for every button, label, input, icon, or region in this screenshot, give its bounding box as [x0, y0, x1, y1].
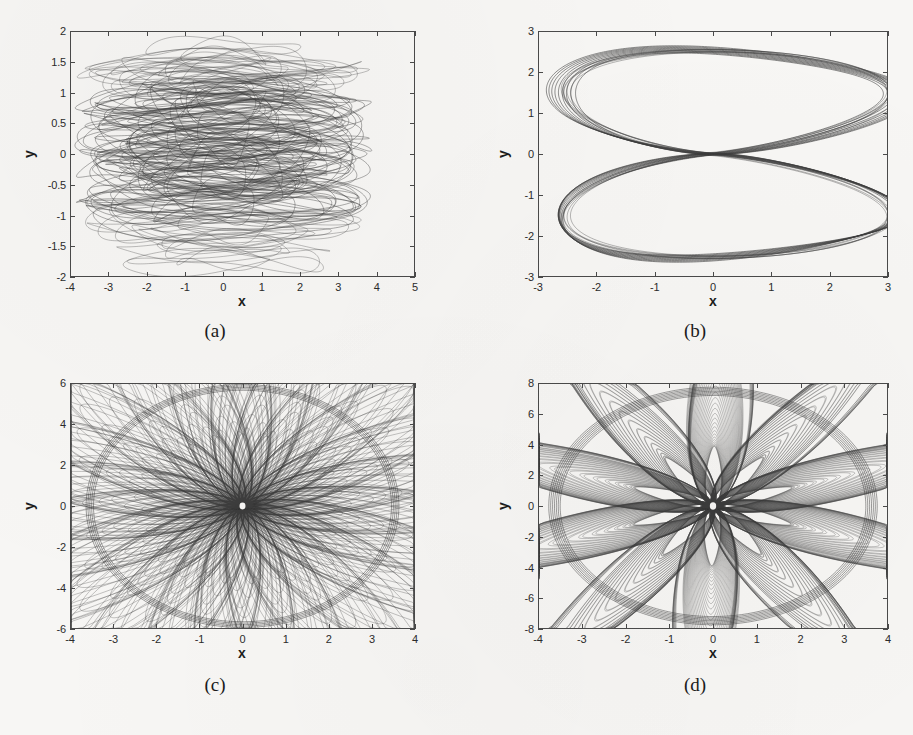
panel-a-ytick-right: [410, 123, 415, 124]
panel-d: -4-3-2-101234-8-6-4-202468 x y (d): [456, 350, 913, 735]
panel-b-xtick: [830, 272, 831, 277]
panel-c-xtick: [156, 624, 157, 629]
panel-c-xtick-top: [113, 383, 114, 388]
panel-d-xtick: [844, 624, 845, 629]
panel-a-ytick-label: 1.5: [28, 56, 66, 68]
panel-a: -4-3-2-1012345-2-1.5-1-0.500.511.52 x y …: [0, 0, 456, 360]
panel-b-plot-area: [538, 31, 888, 277]
panel-c-xtick-top: [70, 383, 71, 388]
panel-b-axes-frame: [538, 31, 888, 277]
panel-c-xtick: [113, 624, 114, 629]
panel-a-ylabel: y: [21, 150, 37, 158]
panel-c-ytick-right: [410, 424, 415, 425]
panel-d-ytick-right: [883, 629, 888, 630]
panel-d-ytick: [538, 598, 543, 599]
panel-d-ytick-label: 6: [496, 408, 534, 420]
panel-d-xtick-top: [757, 383, 758, 388]
panel-d-ytick-label: -4: [496, 562, 534, 574]
panel-c-ytick-right: [410, 629, 415, 630]
panel-d-ytick-right: [883, 475, 888, 476]
panel-c-xtick: [286, 624, 287, 629]
panel-a-axes-frame: [70, 31, 415, 277]
panel-a-ytick-label: -2: [28, 271, 66, 283]
panel-d-ytick-right: [883, 568, 888, 569]
panel-d-ytick-label: 4: [496, 439, 534, 451]
panel-d-ytick-right: [883, 598, 888, 599]
panel-c-xtick-label: -1: [195, 633, 204, 645]
panel-c-ytick-right: [410, 465, 415, 466]
panel-d-ytick: [538, 537, 543, 538]
panel-d-ytick-label: -6: [496, 592, 534, 604]
panel-a-ytick: [70, 123, 75, 124]
panel-c-xtick-top: [286, 383, 287, 388]
panel-c-xtick-label: -4: [65, 633, 74, 645]
panel-b-ytick-right: [883, 195, 888, 196]
panel-a-ytick-right: [410, 31, 415, 32]
panel-a-ytick-right: [410, 93, 415, 94]
panel-c-xtick: [372, 624, 373, 629]
panel-d-xtick-label: -1: [665, 633, 674, 645]
panel-a-xtick-top: [338, 31, 339, 36]
panel-b-xtick-label: -2: [592, 281, 601, 293]
panel-b-xtick: [655, 272, 656, 277]
panel-c-ytick-label: -2: [28, 541, 66, 553]
panel-a-ytick: [70, 154, 75, 155]
panel-a-xtick-label: -2: [142, 281, 151, 293]
panel-a-ytick: [70, 216, 75, 217]
panel-c-xtick-top: [156, 383, 157, 388]
panel-a-xtick-label: 3: [335, 281, 341, 293]
panel-d-xtick-label: 4: [885, 633, 891, 645]
panel-a-xlabel: x: [238, 293, 246, 309]
panel-d-xtick-label: 1: [754, 633, 760, 645]
panel-a-ytick-label: 1: [28, 87, 66, 99]
panel-c-xtick-label: 1: [283, 633, 289, 645]
panel-b-ytick-right: [883, 236, 888, 237]
panel-b-xtick-top: [596, 31, 597, 36]
panel-a-xtick-top: [70, 31, 71, 36]
panel-a-xtick: [300, 272, 301, 277]
panel-d-ylabel: y: [495, 502, 511, 510]
panel-d-plot-area: [538, 383, 888, 629]
figure-page: -4-3-2-1012345-2-1.5-1-0.500.511.52 x y …: [0, 0, 913, 735]
panel-b-xtick-top: [888, 31, 889, 36]
panel-c-ytick: [70, 547, 75, 548]
panel-a-xtick-label: -4: [65, 281, 74, 293]
panel-d-ytick: [538, 445, 543, 446]
panel-b-ytick-label: -2: [496, 230, 534, 242]
panel-c-xtick: [415, 624, 416, 629]
panel-b-ytick-label: 2: [496, 66, 534, 78]
panel-d-ytick: [538, 629, 543, 630]
panel-b-xtick-top: [538, 31, 539, 36]
panel-a-ytick-label: -1.5: [28, 240, 66, 252]
panel-a-xtick: [147, 272, 148, 277]
panel-a-xtick-label: -3: [104, 281, 113, 293]
panel-a-ytick: [70, 93, 75, 94]
panel-b-ytick-right: [883, 277, 888, 278]
panel-d-xtick-top: [669, 383, 670, 388]
panel-b-ylabel: y: [495, 150, 511, 158]
panel-a-xtick: [415, 272, 416, 277]
panel-b-ytick-label: 1: [496, 107, 534, 119]
panel-a-xtick: [108, 272, 109, 277]
panel-d-ytick: [538, 414, 543, 415]
panel-d-xtick: [669, 624, 670, 629]
panel-b-xlabel: x: [709, 293, 717, 309]
panel-d-xtick: [757, 624, 758, 629]
panel-b-xtick-top: [713, 31, 714, 36]
panel-b-xtick-label: -3: [533, 281, 542, 293]
panel-d-ytick-right: [883, 414, 888, 415]
panel-b-xtick-top: [655, 31, 656, 36]
panel-d-xtick-top: [538, 383, 539, 388]
panel-b-xtick-label: 2: [827, 281, 833, 293]
panel-a-xtick: [338, 272, 339, 277]
panel-b-xtick-label: -1: [650, 281, 659, 293]
panel-c-ytick-right: [410, 506, 415, 507]
panel-c-xtick-label: 4: [412, 633, 418, 645]
panel-d-xtick-label: -2: [621, 633, 630, 645]
panel-d-axes-frame: [538, 383, 888, 629]
panel-a-xtick: [377, 272, 378, 277]
panel-d-ytick-label: 2: [496, 469, 534, 481]
panel-a-xtick-label: 0: [220, 281, 226, 293]
panel-d-xtick-top: [713, 383, 714, 388]
panel-d-xtick: [801, 624, 802, 629]
